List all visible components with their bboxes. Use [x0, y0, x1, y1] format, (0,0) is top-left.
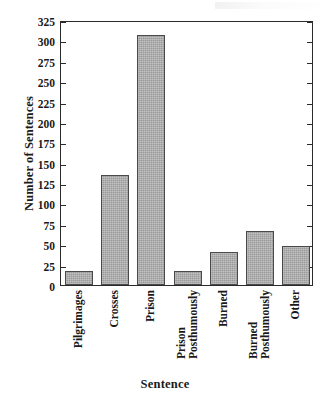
- plot-area: 0255075100125150175200225250275300325: [60, 21, 313, 286]
- y-tick-label: 200: [9, 118, 55, 130]
- y-tick-label: 250: [9, 77, 55, 89]
- x-tick-label: Prison: [144, 290, 156, 322]
- y-tick-mark: [307, 22, 312, 23]
- x-tick-label: PrisonPosthumously: [174, 290, 199, 359]
- scan-artifact: [215, 2, 320, 9]
- x-tick-label: Other: [289, 290, 301, 319]
- y-tick-mark: [307, 226, 312, 227]
- y-tick-mark: [61, 124, 66, 125]
- x-tick-label: Pilgrimages: [72, 290, 84, 348]
- y-tick-mark: [61, 83, 66, 84]
- bar: [65, 271, 93, 285]
- bar-chart-figure: Number of Sentences 02550751001251501752…: [0, 0, 330, 404]
- y-tick-mark: [61, 226, 66, 227]
- y-tick-mark: [61, 144, 66, 145]
- y-tick-mark: [61, 63, 66, 64]
- y-tick-mark: [61, 42, 66, 43]
- y-tick-label: 75: [9, 220, 55, 232]
- y-tick-mark: [307, 104, 312, 105]
- y-tick-label: 225: [9, 98, 55, 110]
- y-tick-label: 100: [9, 199, 55, 211]
- y-tick-mark: [61, 185, 66, 186]
- y-tick-mark: [61, 205, 66, 206]
- bar: [246, 231, 274, 285]
- y-tick-label: 25: [9, 261, 55, 273]
- y-tick-label: 150: [9, 159, 55, 171]
- y-tick-mark: [61, 104, 66, 105]
- y-tick-mark: [307, 42, 312, 43]
- bar: [101, 175, 129, 285]
- y-tick-mark: [307, 124, 312, 125]
- x-tick-label: BurnedPosthumously: [246, 290, 271, 359]
- bar: [210, 252, 238, 285]
- y-tick-mark: [307, 144, 312, 145]
- x-tick-label: Burned: [216, 290, 228, 327]
- x-tick-label: Crosses: [108, 290, 120, 327]
- y-tick-label: 50: [9, 240, 55, 252]
- y-tick-mark: [307, 185, 312, 186]
- bar: [282, 246, 310, 285]
- y-axis-title: Number of Sentences: [22, 69, 37, 239]
- bar: [137, 35, 165, 285]
- y-tick-label: 325: [9, 16, 55, 28]
- y-tick-mark: [61, 22, 66, 23]
- y-tick-mark: [307, 63, 312, 64]
- y-tick-mark: [307, 205, 312, 206]
- y-tick-mark: [61, 267, 66, 268]
- y-tick-label: 0: [9, 281, 55, 293]
- y-tick-label: 300: [9, 36, 55, 48]
- y-tick-mark: [307, 83, 312, 84]
- y-tick-label: 125: [9, 179, 55, 191]
- x-axis-title: Sentence: [0, 377, 330, 392]
- y-tick-mark: [307, 165, 312, 166]
- bar: [174, 271, 202, 285]
- y-tick-label: 275: [9, 57, 55, 69]
- y-tick-mark: [61, 246, 66, 247]
- y-tick-mark: [61, 165, 66, 166]
- y-tick-label: 175: [9, 138, 55, 150]
